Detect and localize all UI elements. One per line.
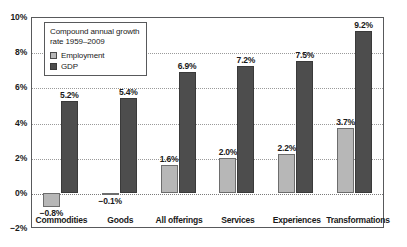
y-axis-tick-label: 10% [0,12,27,22]
bar-gdp [120,98,137,193]
bar-employment [337,128,354,193]
legend-swatch-employment-icon [50,52,57,59]
bar-group: 1.6%6.9% [149,17,208,228]
legend-swatch-gdp-icon [50,63,57,70]
bar-employment [161,165,178,193]
bar-value-label: 7.5% [283,50,326,60]
legend-label-employment: Employment [61,51,104,60]
bar-employment [278,154,295,193]
bar-gdp [61,101,78,192]
chart-legend: Compound annual growth rate 1959–2009 Em… [44,22,147,76]
y-axis-tick-label: −2% [0,223,27,233]
y-axis-tick-label: 0% [0,188,27,198]
bar-gdp [355,31,372,193]
bar-employment [219,158,236,193]
bar-value-label: 6.9% [166,61,209,71]
bar-value-label: 7.2% [224,55,267,65]
bar-employment [102,193,119,195]
bar-group: 3.7%9.2% [325,17,384,228]
bar-value-label: −0.1% [89,196,132,206]
y-axis-tick-label: 6% [0,82,27,92]
y-axis-tick-label: 2% [0,153,27,163]
bar-value-label: 9.2% [342,20,385,30]
bar-group: 2.2%7.5% [266,17,325,228]
legend-label-gdp: GDP [61,62,78,71]
y-axis-tick-label: 8% [0,47,27,57]
growth-rate-bar-chart: −2%0%2%4%6%8%10% CommoditiesGoodsAll off… [0,0,407,247]
bar-employment [43,193,60,207]
bar-gdp [237,66,254,193]
bar-value-label: −0.8% [30,208,73,218]
bar-group: 2.0%7.2% [208,17,267,228]
legend-item-employment: Employment [50,51,141,60]
legend-item-gdp: GDP [50,62,141,71]
legend-title: Compound annual growth rate 1959–2009 [50,27,141,47]
bar-value-label: 5.2% [48,90,91,100]
bar-gdp [296,61,313,193]
y-axis-tick-label: 4% [0,118,27,128]
bar-value-label: 5.4% [107,87,150,97]
bar-gdp [179,72,196,193]
